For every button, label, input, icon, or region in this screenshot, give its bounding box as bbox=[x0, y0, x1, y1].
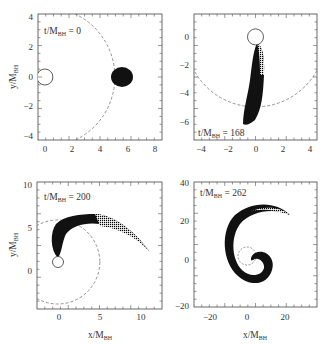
svg-text:−20: −20 bbox=[203, 312, 218, 322]
svg-text:10: 10 bbox=[23, 180, 33, 190]
time-label: t/MBH = 0 bbox=[44, 26, 81, 37]
svg-text:0: 0 bbox=[29, 72, 34, 82]
svg-text:−2: −2 bbox=[223, 144, 233, 154]
svg-text:0: 0 bbox=[185, 255, 190, 265]
x-axis-label: x/MBH bbox=[243, 330, 268, 341]
svg-text:2: 2 bbox=[281, 144, 286, 154]
svg-text:−4: −4 bbox=[23, 131, 33, 141]
svg-text:20: 20 bbox=[180, 216, 190, 226]
svg-text:−4: −4 bbox=[179, 88, 189, 98]
time-label: t/MBH = 262 bbox=[200, 188, 247, 199]
svg-text:2: 2 bbox=[70, 144, 75, 154]
panel-t262: t/MBH = 262 40 20 0 −20 −20 0 20 x/MBH bbox=[175, 178, 317, 341]
svg-text:5: 5 bbox=[98, 312, 103, 322]
svg-text:0: 0 bbox=[185, 32, 190, 42]
svg-text:0: 0 bbox=[254, 144, 259, 154]
y-axis-label: y/MBH bbox=[8, 64, 19, 89]
svg-text:8: 8 bbox=[153, 144, 158, 154]
x-axis-label: x/MBH bbox=[88, 330, 113, 341]
svg-text:0: 0 bbox=[245, 312, 250, 322]
svg-text:−6: −6 bbox=[179, 117, 189, 127]
svg-text:2: 2 bbox=[29, 42, 34, 52]
panel-t168: t/MBH = 168 0 −2 −4 −6 −4 −2 0 2 4 bbox=[179, 0, 325, 154]
svg-text:−20: −20 bbox=[175, 301, 190, 311]
svg-text:20: 20 bbox=[281, 312, 291, 322]
svg-text:−2: −2 bbox=[23, 101, 33, 111]
star bbox=[111, 67, 133, 87]
svg-text:−2: −2 bbox=[179, 60, 189, 70]
svg-text:6: 6 bbox=[126, 144, 131, 154]
figure: t/MBH = 0 4 2 0 −2 −4 0 2 4 6 8 y/MBH t/… bbox=[0, 0, 329, 344]
svg-text:4: 4 bbox=[29, 12, 34, 22]
y-axis-label: y/MBH bbox=[8, 232, 19, 257]
panel-t0: t/MBH = 0 4 2 0 −2 −4 0 2 4 6 8 y/MBH bbox=[0, 7, 162, 154]
svg-text:5: 5 bbox=[28, 223, 33, 233]
svg-text:4: 4 bbox=[98, 144, 103, 154]
black-hole-circle bbox=[53, 257, 64, 268]
star-spiral bbox=[225, 204, 290, 283]
svg-text:0: 0 bbox=[28, 266, 33, 276]
svg-text:0: 0 bbox=[43, 144, 48, 154]
svg-text:0: 0 bbox=[57, 312, 62, 322]
svg-text:4: 4 bbox=[308, 144, 313, 154]
plot-frame bbox=[194, 182, 317, 307]
svg-text:10: 10 bbox=[137, 312, 147, 322]
black-hole-circle bbox=[248, 29, 264, 45]
time-label: t/MBH = 200 bbox=[44, 192, 91, 203]
panel-t200: t/MBH = 200 10 5 0 0 5 10 y/MBH x/MBH bbox=[8, 180, 162, 341]
svg-text:−4: −4 bbox=[196, 144, 206, 154]
time-label: t/MBH = 168 bbox=[198, 128, 245, 139]
svg-text:40: 40 bbox=[180, 178, 190, 188]
